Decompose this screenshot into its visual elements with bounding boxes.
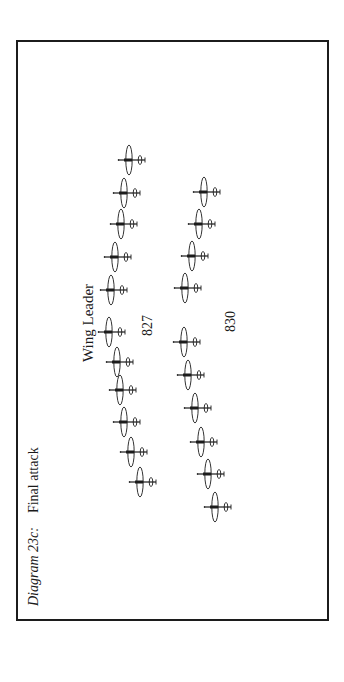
aircraft-icon <box>182 391 214 425</box>
aircraft-icon <box>107 373 139 407</box>
aircraft-icon <box>118 435 150 469</box>
aircraft-icon <box>116 143 148 177</box>
squadron-827-label: 827 <box>140 315 156 336</box>
aircraft-icon <box>175 358 207 392</box>
aircraft-icon <box>195 457 227 491</box>
aircraft-icon <box>96 315 128 349</box>
aircraft-icon <box>102 240 134 274</box>
caption-title: Final attack <box>26 447 41 513</box>
aircraft-icon <box>191 175 223 209</box>
aircraft-icon <box>186 207 218 241</box>
aircraft-icon <box>127 465 159 499</box>
aircraft-icon <box>98 273 130 307</box>
aircraft-icon <box>171 325 203 359</box>
aircraft-icon <box>108 207 140 241</box>
aircraft-icon <box>202 490 234 524</box>
aircraft-icon <box>111 405 143 439</box>
caption-label: Diagram 23c: <box>26 527 41 606</box>
aircraft-icon <box>188 425 220 459</box>
diagram-caption: Diagram 23c:Final attack <box>26 447 42 606</box>
aircraft-icon <box>172 271 204 305</box>
wing-leader-label: Wing Leader <box>80 284 97 362</box>
squadron-830-label: 830 <box>223 311 239 332</box>
aircraft-icon <box>179 239 211 273</box>
aircraft-icon <box>111 176 143 210</box>
